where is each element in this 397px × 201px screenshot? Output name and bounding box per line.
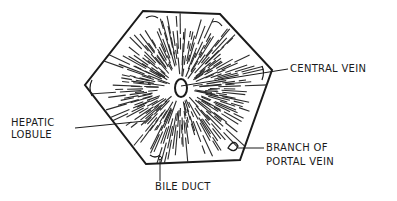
hepatic-lobule-label-line2: LOBULE <box>11 129 52 140</box>
central-vein-label: CENTRAL VEIN <box>290 63 366 74</box>
lobule-drawing <box>0 0 397 201</box>
branch-portal-vein-label-line1: BRANCH OF <box>266 142 328 153</box>
hepatic-lobule-diagram: CENTRAL VEIN HEPATIC LOBULE BRANCH OF PO… <box>0 0 397 201</box>
bile-duct-label: BILE DUCT <box>155 181 211 192</box>
branch-portal-vein-label-line2: PORTAL VEIN <box>266 156 334 167</box>
central-vein-shape <box>175 79 187 97</box>
hepatic-lobule-label-line1: HEPATIC <box>11 117 54 128</box>
